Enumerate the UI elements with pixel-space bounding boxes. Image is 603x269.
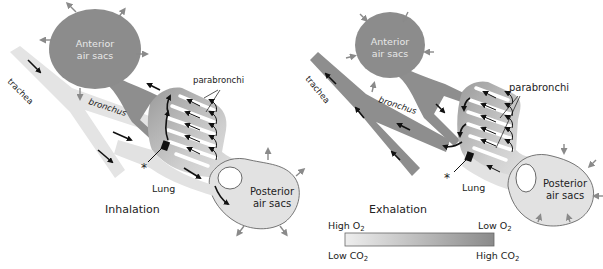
parabronchi-label: parabronchi bbox=[193, 75, 244, 85]
posterior-sac-hole bbox=[516, 164, 536, 192]
legend-low-o2: Low O2 bbox=[478, 220, 512, 233]
inhalation-panel: Anterior air sacs trachea bronchus parab… bbox=[6, 4, 303, 234]
anterior-air-sac bbox=[49, 9, 141, 89]
posterior-sac-hole bbox=[218, 167, 242, 189]
trachea-label: trachea bbox=[6, 76, 36, 106]
anterior-label-line1: Anterior bbox=[76, 38, 114, 49]
asterisk-label: * bbox=[141, 161, 147, 175]
asterisk-label: * bbox=[444, 171, 450, 185]
legend-low-co2: Low CO2 bbox=[328, 250, 368, 263]
lung-label: Lung bbox=[152, 183, 175, 194]
exhalation-title: Exhalation bbox=[369, 203, 427, 216]
lung-label: Lung bbox=[462, 182, 485, 193]
posterior-label-line2: air sacs bbox=[546, 190, 584, 201]
inhalation-title: Inhalation bbox=[105, 203, 160, 216]
legend-gradient-bar bbox=[345, 233, 494, 246]
legend-high-co2: High CO2 bbox=[476, 250, 519, 263]
exhalation-panel: Anterior air sacs trachea bronchus parab… bbox=[303, 12, 603, 226]
posterior-label-line2: air sacs bbox=[253, 198, 291, 209]
parabronchi-label: parabronchi bbox=[509, 82, 569, 93]
anterior-label-line2: air sacs bbox=[77, 50, 113, 61]
anterior-label-line1: Anterior bbox=[371, 36, 409, 47]
posterior-label-line1: Posterior bbox=[250, 186, 295, 197]
anterior-label-line2: air sacs bbox=[372, 48, 408, 59]
bird-respiration-diagram: Anterior air sacs trachea bronchus parab… bbox=[0, 0, 603, 269]
posterior-label-line1: Posterior bbox=[543, 178, 588, 189]
legend-high-o2: High O2 bbox=[328, 220, 365, 233]
gas-gradient-legend: High O2 Low O2 Low CO2 High CO2 bbox=[328, 220, 519, 263]
